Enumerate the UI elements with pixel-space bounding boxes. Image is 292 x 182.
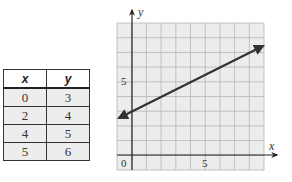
x-axis-label: x: [268, 139, 275, 153]
x-tick-5: 5: [202, 157, 208, 169]
origin-label: 0: [121, 157, 127, 169]
y-tick-5: 5: [121, 75, 127, 87]
y-axis-label: y: [137, 5, 144, 19]
coordinate-graph: y x 0 5 5: [0, 0, 292, 182]
